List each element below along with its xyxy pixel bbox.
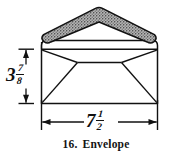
height-arrowhead-bottom: [23, 95, 29, 103]
width-denominator: 2: [95, 122, 103, 132]
figure-caption-number: 16.: [62, 138, 77, 150]
height-fraction: 7 8: [15, 63, 25, 86]
height-numerator: 7: [17, 63, 25, 73]
height-whole-number: 3: [6, 65, 15, 84]
height-denominator: 8: [15, 76, 23, 86]
width-arrowhead-right: [149, 119, 157, 125]
height-arrowhead-top: [23, 50, 29, 58]
envelope-figure: 3 7 8 7 1 2 16. Envelope: [0, 0, 192, 159]
figure-caption-text: Envelope: [83, 138, 130, 150]
width-arrowhead-left: [42, 119, 50, 125]
envelope-flap: [42, 8, 156, 43]
width-numerator: 1: [97, 109, 105, 119]
height-dimension-label: 3 7 8: [6, 63, 24, 86]
figure-caption: 16. Envelope: [0, 138, 192, 150]
envelope-drawing: [0, 0, 192, 159]
width-fraction: 1 2: [95, 109, 105, 132]
width-dimension-label: 7 1 2: [86, 109, 104, 132]
width-whole-number: 7: [86, 111, 95, 130]
